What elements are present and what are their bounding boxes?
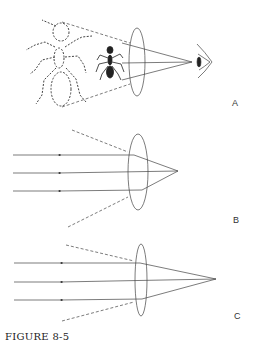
panel-a <box>26 20 212 107</box>
figure-diagram <box>0 0 256 355</box>
panel-label-c: C <box>234 311 241 321</box>
panel-label-b: B <box>233 215 239 225</box>
lens-a <box>129 28 145 96</box>
ant-object <box>96 47 124 81</box>
panel-b <box>13 130 178 227</box>
lens-c <box>135 244 147 316</box>
panel-c <box>14 244 216 321</box>
panel-label-a: A <box>232 98 238 108</box>
eye-icon <box>197 44 212 78</box>
figure-caption: FIGURE 8-5 <box>5 331 69 342</box>
virtual-image-ant <box>26 20 92 106</box>
